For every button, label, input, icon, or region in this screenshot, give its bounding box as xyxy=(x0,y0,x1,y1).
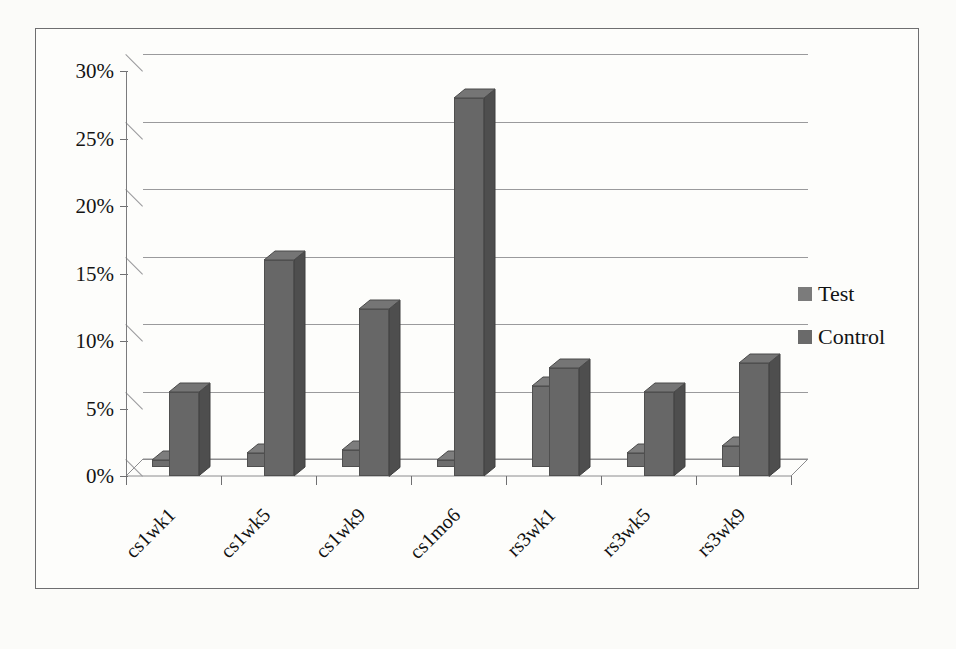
legend-swatch-icon xyxy=(798,287,812,301)
x-axis-tick-mark xyxy=(506,476,507,485)
y-axis-tick-label: 30% xyxy=(48,61,114,82)
bar-side-face xyxy=(674,383,688,481)
bar-front-face xyxy=(169,392,199,476)
x-axis-tick-mark xyxy=(316,476,317,485)
bar-front-face xyxy=(264,260,294,476)
legend-label: Test xyxy=(818,283,854,305)
x-axis-tick-mark xyxy=(126,476,127,485)
legend-swatch-icon xyxy=(798,330,812,344)
bar-front-face xyxy=(644,392,674,476)
bar-rs3wk9-control xyxy=(739,354,769,476)
bar-cs1mo6-control xyxy=(454,89,484,476)
chart-frame: 0%5%10%15%20%25%30% cs1wk1cs1wk5cs1wk9cs… xyxy=(35,28,919,589)
y-axis-tick-label: 15% xyxy=(48,263,114,284)
bar-cs1wk9-control xyxy=(359,300,389,476)
bar-side-face xyxy=(199,383,213,481)
y-axis-tick-label: 5% xyxy=(48,398,114,419)
bar-side-face xyxy=(769,354,783,481)
y-axis-tick-label: 0% xyxy=(48,466,114,487)
legend-item-control: Control xyxy=(798,324,916,350)
bar-cs1wk5-control xyxy=(264,251,294,476)
y-axis-line xyxy=(126,71,127,476)
bar-front-face xyxy=(739,363,769,476)
y-axis-tick-label: 25% xyxy=(48,128,114,149)
bar-rs3wk1-control xyxy=(549,359,579,476)
x-axis-tick-mark xyxy=(411,476,412,485)
legend-item-test: Test xyxy=(798,281,916,307)
bar-cs1wk1-control xyxy=(169,383,199,476)
bar-side-face xyxy=(389,300,403,481)
x-axis-tick-mark xyxy=(791,476,792,485)
chart-legend: TestControl xyxy=(798,281,916,367)
y-axis-tick-label: 20% xyxy=(48,196,114,217)
bar-side-face xyxy=(484,89,498,481)
x-axis-tick-mark xyxy=(696,476,697,485)
y-axis-tick-label: 10% xyxy=(48,331,114,352)
bar-front-face xyxy=(454,98,484,476)
bar-side-face xyxy=(294,251,308,481)
x-axis-tick-mark xyxy=(601,476,602,485)
gridline xyxy=(143,54,808,55)
bar-side-face xyxy=(579,359,593,481)
chart-plot-area: 0%5%10%15%20%25%30% cs1wk1cs1wk5cs1wk9cs… xyxy=(36,29,920,590)
bar-front-face xyxy=(549,368,579,476)
bar-front-face xyxy=(359,309,389,476)
x-axis-tick-mark xyxy=(221,476,222,485)
legend-label: Control xyxy=(818,326,885,348)
bar-rs3wk5-control xyxy=(644,383,674,476)
